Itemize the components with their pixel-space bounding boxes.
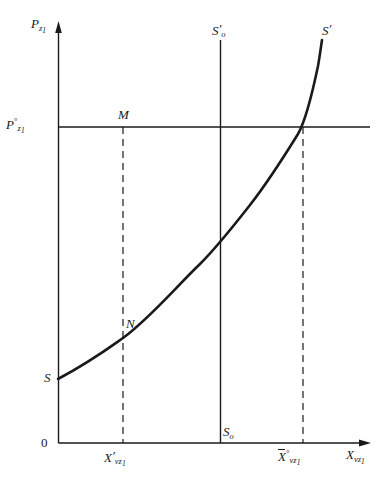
origin-label: 0 (41, 436, 48, 449)
x-tick-label-x-prime: X′vz1 (104, 449, 126, 468)
x-tick-label-xbar-zero: X°vz1 (278, 449, 300, 467)
supply-curve-end-label: S′ (322, 22, 331, 37)
point-n: N (126, 317, 135, 330)
vertical-supply-top-label: S′o (212, 22, 226, 39)
quantity-axis-label: Xvz1 (346, 448, 365, 465)
figure-root: Pz1 P°z1 0 Xvz1 X′vz1 So X°vz1 S′o S′ S … (0, 0, 389, 477)
point-m: M (118, 108, 129, 121)
y-tick-label-p-zero: P°z1 (6, 117, 25, 135)
price-axis-label: Pz1 (31, 17, 46, 34)
quantity-axis (59, 440, 372, 447)
diagram-canvas (0, 0, 389, 477)
vertical-supply-bottom-label: So (223, 425, 234, 440)
supply-curve-start-label: S (44, 371, 51, 384)
supply-curve-s-sprime (58, 40, 322, 379)
